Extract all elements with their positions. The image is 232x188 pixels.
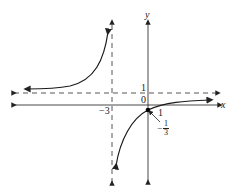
point-label-denominator: 3 (163, 129, 169, 137)
y-intercept-point (146, 108, 151, 113)
point-label-fraction: 1 3 (163, 120, 169, 137)
x-intercept-one-label: 1 (158, 108, 163, 118)
graph-canvas (0, 0, 232, 188)
origin-label: 0 (141, 95, 146, 105)
y-axis-label: y (145, 10, 149, 20)
horizontal-asymptote-label: 1 (141, 83, 146, 93)
point-label-sign: − (157, 124, 162, 133)
x-axis-label: x (221, 100, 225, 110)
curve-left-branch (27, 32, 108, 89)
vertical-asymptote-label: −3 (99, 106, 110, 116)
